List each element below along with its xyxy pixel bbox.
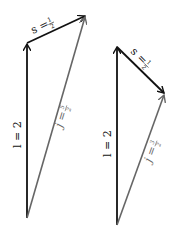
l-label-left: l = 2 xyxy=(11,121,24,148)
l-label-right: l = 2 xyxy=(101,130,114,157)
j-label-left: j = 5 2 xyxy=(52,103,73,132)
svg-text:j =: j = xyxy=(141,144,160,166)
s-label-right: s = 1 2 xyxy=(127,45,154,72)
svg-text:2: 2 xyxy=(64,106,72,113)
j-label-right: j = 3 2 xyxy=(141,138,163,167)
s-label-left: s = 1 2 xyxy=(29,15,57,38)
svg-text:2: 2 xyxy=(154,141,162,148)
vector-coupling-diagram: l = 2 s = 1 2 j = 5 2 l = 2 s = 1 2 xyxy=(0,0,177,233)
right-figure: l = 2 s = 1 2 j = 3 2 xyxy=(101,45,164,225)
svg-text:j =: j = xyxy=(52,110,70,132)
left-figure: l = 2 s = 1 2 j = 5 2 xyxy=(11,15,85,218)
